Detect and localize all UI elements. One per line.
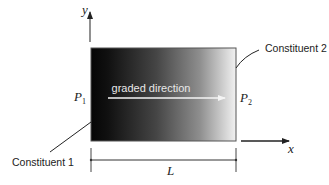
constituent-1-leader-line bbox=[50, 122, 91, 152]
y-axis: y bbox=[80, 2, 90, 42]
x-axis: x bbox=[241, 141, 294, 156]
fgm-diagram: y graded direction P1 P2 Constituent 2 C… bbox=[0, 0, 329, 185]
length-dimension: L bbox=[91, 148, 236, 178]
point-p2-label: P2 bbox=[239, 90, 252, 107]
constituent-1-label: Constituent 1 bbox=[12, 156, 74, 168]
length-label: L bbox=[166, 163, 174, 178]
constituent-2-leader-line bbox=[236, 50, 259, 68]
x-axis-label: x bbox=[287, 141, 294, 156]
point-p1-label: P1 bbox=[73, 89, 86, 106]
constituent-2-label: Constituent 2 bbox=[265, 42, 327, 54]
graded-direction-label: graded direction bbox=[112, 82, 191, 94]
y-axis-label: y bbox=[80, 2, 88, 17]
graded-bar bbox=[91, 48, 236, 141]
